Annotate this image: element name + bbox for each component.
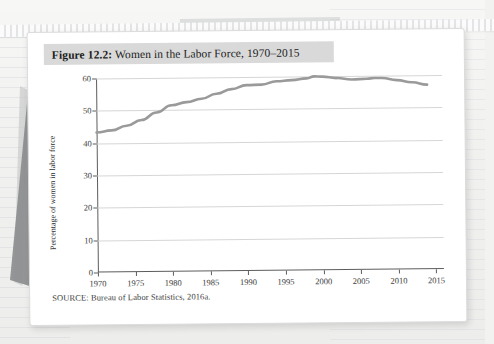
plot-area: 0102030405060 19701975198019851990199520…: [96, 75, 444, 272]
x-tick-mark: [98, 272, 99, 276]
x-tick-mark: [173, 272, 174, 276]
y-tick-label: 0: [89, 267, 93, 277]
figure-title: Figure 12.2: Women in the Labor Force, 1…: [52, 46, 300, 60]
figure-page-card: Figure 12.2: Women in the Labor Force, 1…: [27, 28, 468, 326]
x-tick-label: 1980: [165, 278, 182, 288]
x-tick-label: 2015: [428, 275, 445, 285]
x-tick-label: 1990: [240, 277, 257, 287]
x-tick-label: 1995: [277, 277, 294, 287]
x-tick-mark: [361, 270, 362, 274]
x-tick-mark: [136, 272, 137, 276]
figure-number: Figure 12.2:: [52, 48, 113, 61]
x-tick-label: 1985: [202, 277, 219, 287]
y-axis-label: Percentage of women in labor force: [48, 133, 59, 253]
y-tick-label: 20: [84, 203, 93, 213]
y-tick-label: 40: [83, 138, 92, 148]
figure-title-text: Women in the Labor Force, 1970–2015: [112, 46, 299, 60]
source-note: SOURCE: Bureau of Labor Statistics, 2016…: [52, 291, 210, 303]
x-tick-mark: [286, 271, 287, 275]
x-tick-mark: [436, 269, 437, 273]
y-tick-label: 60: [82, 73, 91, 83]
x-tick-mark: [399, 270, 400, 274]
y-tick-label: 50: [83, 106, 92, 116]
figure-title-band: Figure 12.2: Women in the Labor Force, 1…: [44, 41, 334, 65]
y-tick-label: 10: [84, 235, 93, 245]
line-series: [96, 75, 444, 272]
x-tick-label: 2000: [315, 276, 332, 286]
series-line: [96, 75, 427, 132]
x-tick-mark: [248, 271, 249, 275]
x-tick-mark: [211, 271, 212, 275]
chart-container: Percentage of women in labor force 01020…: [50, 69, 452, 313]
x-tick-mark: [324, 270, 325, 274]
x-tick-label: 1975: [127, 278, 144, 288]
y-tick-label: 30: [83, 170, 92, 180]
x-tick-label: 2005: [353, 276, 370, 286]
x-tick-label: 1970: [89, 278, 106, 288]
x-tick-label: 2010: [390, 275, 407, 285]
